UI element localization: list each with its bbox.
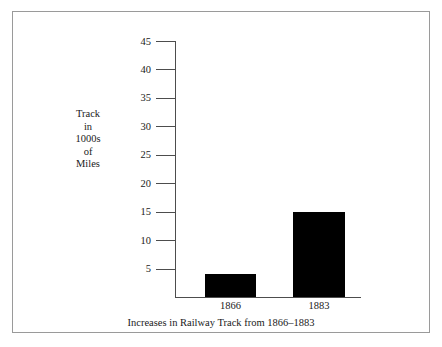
bar-1866 — [205, 274, 256, 297]
x-axis-category-label-1883: 1883 — [293, 301, 345, 312]
y-axis-tick-mark — [156, 240, 176, 241]
y-axis-tick-label: 10 — [141, 235, 152, 246]
y-axis-tick-20: 20 — [156, 183, 176, 184]
chart-figure-frame: Track in 1000s of Miles 5101520253035404… — [12, 11, 430, 333]
y-axis-title-line-5: Miles — [51, 158, 125, 171]
y-axis-line — [175, 41, 176, 298]
y-axis-tick-mark — [156, 183, 176, 184]
y-axis-tick-mark — [156, 69, 176, 70]
y-axis-tick-mark — [156, 126, 176, 127]
y-axis-tick-mark — [156, 212, 176, 213]
y-axis-tick-45: 45 — [156, 41, 176, 42]
bar-1883 — [293, 212, 345, 297]
y-axis-title: Track in 1000s of Miles — [51, 108, 125, 171]
y-axis-title-line-2: in — [51, 121, 125, 134]
y-axis-tick-mark — [156, 269, 176, 270]
y-axis-tick-15: 15 — [156, 212, 176, 213]
y-axis-tick-10: 10 — [156, 240, 176, 241]
y-axis-title-line-1: Track — [51, 108, 125, 121]
y-axis-tick-label: 35 — [141, 93, 152, 104]
y-axis-tick-label: 30 — [141, 122, 152, 133]
y-axis-tick-label: 20 — [141, 178, 152, 189]
y-axis-tick-mark — [156, 41, 176, 42]
x-axis-category-label-1866: 1866 — [205, 301, 256, 312]
y-axis-tick-mark — [156, 98, 176, 99]
y-axis-tick-label: 45 — [141, 36, 152, 47]
y-axis-tick-35: 35 — [156, 98, 176, 99]
y-axis-tick-label: 25 — [141, 150, 152, 161]
y-axis-title-line-3: 1000s — [51, 133, 125, 146]
x-axis-baseline — [175, 297, 361, 298]
y-axis-tick-label: 15 — [141, 207, 152, 218]
y-axis-tick-label: 40 — [141, 65, 152, 76]
y-axis-tick-5: 5 — [156, 269, 176, 270]
y-axis-tick-mark — [156, 155, 176, 156]
y-axis-tick-30: 30 — [156, 126, 176, 127]
y-axis-tick-label: 5 — [146, 264, 151, 275]
x-axis-caption: Increases in Railway Track from 1866–188… — [13, 318, 429, 329]
bar-chart-plot-area: Track in 1000s of Miles 5101520253035404… — [13, 12, 429, 332]
y-axis-tick-25: 25 — [156, 155, 176, 156]
y-axis-tick-40: 40 — [156, 69, 176, 70]
y-axis-title-line-4: of — [51, 146, 125, 159]
